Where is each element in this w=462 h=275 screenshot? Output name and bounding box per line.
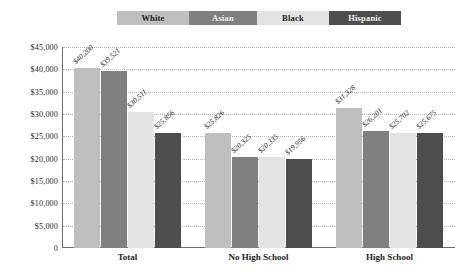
chart-title bbox=[0, 0, 462, 3]
y-axis-tick-label: $10,000 bbox=[31, 199, 58, 208]
legend-label-white: White bbox=[141, 13, 164, 23]
bar-value-label: $30,511 bbox=[125, 87, 149, 110]
bar-value-label: $25,826 bbox=[202, 108, 226, 131]
y-axis-tick-label: $30,000 bbox=[31, 110, 58, 119]
legend-item-black[interactable]: Black bbox=[257, 11, 329, 25]
bar-black-no-high-school[interactable]: $20,335 bbox=[259, 157, 285, 248]
bar-value-label: $19,956 bbox=[283, 134, 307, 157]
x-axis-category-label: No High School bbox=[228, 252, 288, 262]
y-axis-tick-label: $45,000 bbox=[31, 43, 58, 52]
y-axis-labels: 0$5,000$10,000$15,000$20,000$25,000$30,0… bbox=[0, 47, 58, 248]
bar-hispanic-no-high-school[interactable]: $19,956 bbox=[286, 159, 312, 248]
bar-hispanic-high-school[interactable]: $25,675 bbox=[417, 133, 443, 248]
y-axis-tick-label: $5,000 bbox=[35, 221, 58, 230]
bar-value-label: $25,675 bbox=[414, 108, 438, 131]
legend-label-black: Black bbox=[282, 13, 304, 23]
y-axis-tick-label: 0 bbox=[54, 244, 58, 253]
bar-asian-no-high-school[interactable]: $20,325 bbox=[232, 157, 258, 248]
legend-label-hispanic: Hispanic bbox=[348, 13, 382, 23]
bar-black-total[interactable]: $30,511 bbox=[128, 112, 154, 248]
bar-group: $31,328$26,201$25,702$25,675 bbox=[336, 47, 443, 248]
y-axis-tick-label: $25,000 bbox=[31, 132, 58, 141]
legend-item-asian[interactable]: Asian bbox=[189, 11, 257, 25]
bar-series-container: $40,200$39,521$30,511$25,856$25,826$20,3… bbox=[62, 47, 455, 248]
x-axis-category-label: High School bbox=[366, 252, 413, 262]
y-axis-tick-label: $35,000 bbox=[31, 87, 58, 96]
y-axis-tick-label: $40,000 bbox=[31, 65, 58, 74]
legend-item-hispanic[interactable]: Hispanic bbox=[329, 11, 401, 25]
chart-legend: White Asian Black Hispanic bbox=[117, 11, 401, 25]
legend-label-asian: Asian bbox=[212, 13, 234, 23]
bar-value-label: $25,702 bbox=[387, 108, 411, 131]
bar-asian-total[interactable]: $39,521 bbox=[101, 71, 127, 248]
y-axis-tick-label: $20,000 bbox=[31, 154, 58, 163]
bar-value-label: $20,325 bbox=[229, 132, 253, 155]
bar-value-label: $20,335 bbox=[256, 132, 280, 155]
bar-asian-high-school[interactable]: $26,201 bbox=[363, 131, 389, 248]
bar-group: $25,826$20,325$20,335$19,956 bbox=[205, 47, 312, 248]
bar-value-label: $26,201 bbox=[360, 106, 384, 129]
bar-value-label: $40,200 bbox=[71, 43, 95, 66]
bar-white-high-school[interactable]: $31,328 bbox=[336, 108, 362, 248]
y-axis-tick-label: $15,000 bbox=[31, 177, 58, 186]
bar-hispanic-total[interactable]: $25,856 bbox=[155, 133, 181, 248]
x-axis-category-label: Total bbox=[118, 252, 138, 262]
x-axis-labels: TotalNo High SchoolHigh School bbox=[62, 252, 455, 270]
legend-item-white[interactable]: White bbox=[117, 11, 189, 25]
bar-group: $40,200$39,521$30,511$25,856 bbox=[74, 47, 181, 248]
plot-area: $40,200$39,521$30,511$25,856$25,826$20,3… bbox=[62, 47, 455, 248]
bar-white-no-high-school[interactable]: $25,826 bbox=[205, 133, 231, 248]
bar-value-label: $31,328 bbox=[333, 83, 357, 106]
bar-white-total[interactable]: $40,200 bbox=[74, 68, 100, 248]
bar-black-high-school[interactable]: $25,702 bbox=[390, 133, 416, 248]
bar-value-label: $39,521 bbox=[98, 46, 122, 69]
bar-value-label: $25,856 bbox=[152, 108, 176, 131]
